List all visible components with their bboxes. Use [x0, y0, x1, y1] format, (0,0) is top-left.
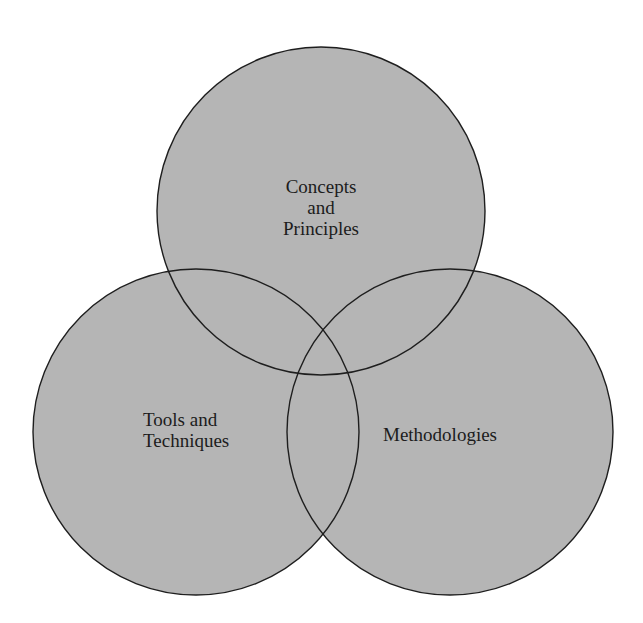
label-line: Techniques — [143, 430, 229, 451]
venn-diagram — [0, 0, 643, 623]
label-line: and — [221, 197, 421, 218]
label-line: Concepts — [221, 176, 421, 197]
label-methodologies: Methodologies — [383, 424, 497, 445]
label-line: Principles — [221, 218, 421, 239]
label-line: Methodologies — [383, 424, 497, 445]
label-concepts-and-principles: Concepts and Principles — [221, 176, 421, 239]
label-line: Tools and — [143, 409, 229, 430]
label-tools-and-techniques: Tools and Techniques — [143, 409, 229, 451]
